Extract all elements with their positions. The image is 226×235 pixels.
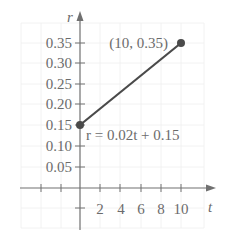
equation-label: r = 0.02t + 0.15 [86, 127, 180, 143]
x-tick-label: 6 [137, 201, 145, 217]
y-axis-arrow-icon [77, 11, 84, 21]
data-point-end [177, 39, 185, 47]
y-tick-label: 0.20 [46, 96, 72, 112]
y-tick-label: 0.30 [46, 55, 72, 71]
endpoint-annotation: (10, 0.35) [109, 35, 168, 52]
x-tick-labels: 2 4 6 8 10 [96, 201, 188, 217]
data-point-start [76, 121, 84, 129]
x-axis-arrow-icon [206, 185, 216, 192]
y-tick-label: 0.10 [46, 138, 72, 154]
x-tick-label: 2 [96, 201, 104, 217]
x-tick-label: 10 [174, 201, 189, 217]
x-axis-label: t [208, 199, 213, 215]
x-tick-label: 4 [117, 201, 125, 217]
y-axis-label: r [67, 9, 73, 25]
y-tick-labels: 0.35 0.30 0.25 0.20 0.15 0.10 0.05 [46, 35, 72, 175]
chart: 0.35 0.30 0.25 0.20 0.15 0.10 0.05 2 4 6… [0, 0, 226, 235]
x-tick-label: 8 [157, 201, 165, 217]
y-tick-label: 0.35 [46, 35, 72, 51]
y-tick-label: 0.25 [46, 76, 72, 92]
y-tick-label: 0.05 [46, 159, 72, 175]
y-tick-label: 0.15 [46, 117, 72, 133]
